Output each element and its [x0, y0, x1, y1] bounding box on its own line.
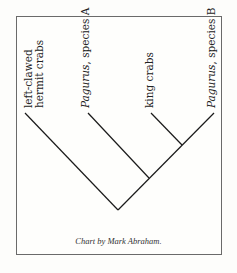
branch-king-crabs	[151, 113, 182, 145]
taxon-label-pagurus-a: Pagurus, species A	[80, 8, 91, 108]
taxon-label-pagurus-b: Pagurus, species B	[206, 8, 217, 108]
genus-name: Pagurus	[79, 64, 91, 108]
taxon-label-left-clawed-hermit-crabs: left-clawed hermit crabs	[23, 40, 45, 108]
genus-name: Pagurus	[205, 64, 217, 108]
chart-credit: Chart by Mark Abraham.	[0, 236, 237, 246]
species-name: , species A	[79, 8, 91, 65]
taxon-label-king-crabs: king crabs	[144, 52, 155, 108]
taxon-label-line2: hermit crabs	[34, 40, 45, 108]
branch-main-right	[118, 113, 214, 210]
branch-left-clawed-hermit-crabs	[25, 113, 118, 210]
branch-pagurus-a	[88, 113, 149, 178]
species-name: , species B	[205, 8, 217, 65]
taxon-label-text: king crabs	[143, 52, 155, 108]
